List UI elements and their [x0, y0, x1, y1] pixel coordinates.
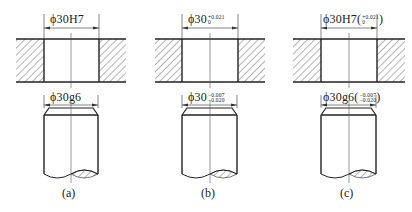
lower-deviation: 0 [362, 20, 379, 26]
shaft-dimension-b: ϕ30−0.007−0.020 [188, 91, 225, 104]
shaft-dimension-c: ϕ30g6(−0.007−0.020) [323, 91, 380, 104]
panel-c-shaft [321, 95, 376, 183]
hole-tolerance: +0.0210 [208, 15, 225, 26]
shaft-tolerance: −0.007−0.020 [360, 93, 377, 104]
shaft-size-label: ϕ30 [188, 90, 207, 104]
close-paren: ) [376, 90, 380, 104]
caption-b: (b) [201, 186, 215, 201]
hole-dimension-a: ϕ30H7 [50, 13, 84, 25]
caption-c: (c) [340, 186, 353, 201]
hole-dimension-b: ϕ30+0.0210 [188, 13, 225, 26]
lower-deviation: −0.020 [208, 98, 225, 104]
panel-b-shaft [182, 95, 237, 183]
lower-deviation: −0.020 [360, 98, 377, 104]
hole-dimension-c: ϕ30H7(+0.0210) [323, 13, 383, 26]
open-paren: ( [357, 12, 361, 26]
hole-size-label: ϕ30H7 [323, 12, 357, 26]
lower-deviation: 0 [208, 20, 225, 26]
hole-size-label: ϕ30H7 [50, 12, 84, 26]
shaft-tolerance: −0.007−0.020 [208, 93, 225, 104]
caption-a: (a) [62, 186, 75, 201]
close-paren: ) [379, 12, 383, 26]
hole-size-label: ϕ30 [188, 12, 207, 26]
shaft-size-label: ϕ30g6 [50, 90, 81, 104]
hole-tolerance: +0.0210 [362, 15, 379, 26]
drawing-canvas [0, 0, 412, 212]
shaft-dimension-a: ϕ30g6 [50, 91, 81, 103]
shaft-size-label: ϕ30g6 [323, 90, 354, 104]
panel-a-shaft [44, 95, 98, 183]
open-paren: ( [354, 90, 358, 104]
